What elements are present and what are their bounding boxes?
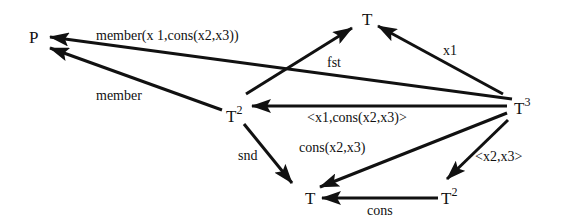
node-T-bottom: T	[305, 189, 316, 208]
node-P: P	[29, 28, 38, 47]
label-member: member	[96, 88, 142, 103]
node-T2-bottom: T2	[441, 185, 457, 208]
label-member-composite: member(x 1,cons(x2,x3))	[96, 28, 239, 44]
label-snd: snd	[238, 148, 257, 163]
label-fst: fst	[327, 55, 341, 70]
label-cons-x2-x3: cons(x2,x3)	[299, 140, 366, 156]
diagram: P T T2 T3 T T2 member(x 1,cons(x2,x3)) m…	[0, 0, 565, 224]
node-T3: T3	[514, 95, 530, 118]
label-pair-x2-x3: <x2,x3>	[475, 149, 522, 164]
node-T2-left: T2	[226, 103, 242, 126]
label-x1: x1	[443, 43, 457, 58]
label-cons: cons	[367, 203, 393, 218]
label-pair-x1-cons: <x1,cons(x2,x3)>	[307, 110, 407, 126]
node-T-top: T	[362, 10, 373, 29]
